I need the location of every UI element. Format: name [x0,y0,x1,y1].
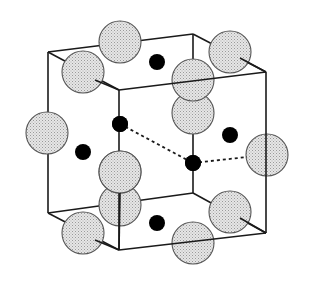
small-atom [75,144,91,160]
small-atom [112,116,128,132]
dashed-bond [193,157,247,163]
large-atom [62,212,104,254]
atoms-layer [26,21,288,233]
large-atom [246,134,288,176]
small-atom [149,54,165,70]
large-atom [209,191,251,233]
large-atom [99,151,141,193]
large-atom [172,59,214,101]
large-atom [62,51,104,93]
cube-edge [119,193,120,250]
small-atom [222,127,238,143]
small-atom [149,215,165,231]
large-atom [26,112,68,154]
crystal-structure-diagram [0,0,309,294]
small-atom [185,155,201,171]
large-atom [99,21,141,63]
large-atom [209,31,251,73]
